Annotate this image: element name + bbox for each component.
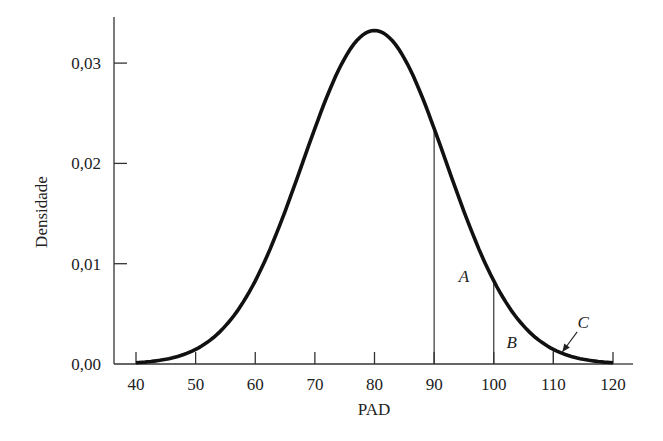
x-ticks: 405060708090100110120 — [128, 352, 626, 394]
x-axis-title: PAD — [358, 400, 390, 419]
density-curve — [136, 31, 613, 363]
y-tick-label: 0,02 — [71, 154, 101, 173]
x-tick-label: 90 — [426, 375, 443, 394]
x-tick-label: 100 — [481, 375, 507, 394]
y-tick-label: 0,00 — [71, 355, 101, 374]
annotation-a: A — [458, 267, 470, 286]
annotation-c: C — [578, 313, 590, 332]
y-tick-label: 0,01 — [71, 255, 101, 274]
x-tick-label: 80 — [366, 375, 383, 394]
region-boundaries — [434, 128, 553, 364]
arrowhead-icon — [562, 343, 570, 352]
y-axis-title: Densidade — [32, 176, 51, 248]
annotation-b: B — [506, 333, 517, 352]
annotations: ABC — [458, 267, 590, 352]
x-tick-label: 60 — [247, 375, 264, 394]
x-tick-label: 70 — [306, 375, 323, 394]
y-ticks: 0,000,010,020,03 — [71, 54, 127, 374]
x-tick-label: 50 — [187, 375, 204, 394]
x-tick-label: 110 — [541, 375, 566, 394]
x-tick-label: 120 — [600, 375, 626, 394]
y-tick-label: 0,03 — [71, 54, 101, 73]
x-tick-label: 40 — [128, 375, 145, 394]
density-chart: 0,000,010,020,03 405060708090100110120 A… — [0, 0, 663, 441]
